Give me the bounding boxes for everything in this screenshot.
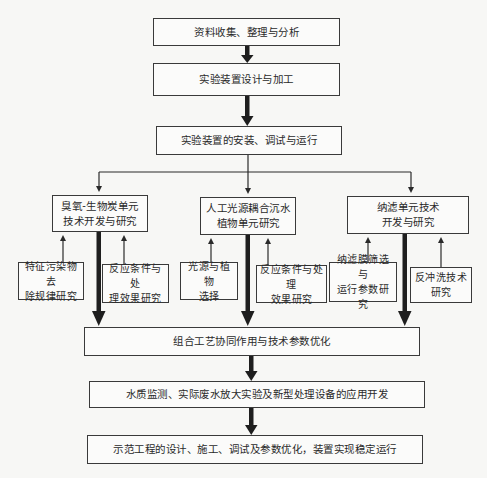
arrow-combine-to-water [245, 356, 258, 381]
sub-label: 反冲洗技术 研究 [415, 270, 468, 300]
unit-nanofiltration: 纳滤单元技术 开发与研究 [347, 196, 469, 234]
sub-reaction-conditions-2: 反应条件与处理 效果研究 [256, 265, 327, 303]
step-combined-optimization: 组合工艺协同作用与技术参数优化 [84, 327, 420, 356]
sub-label: 特征污染物去 除规律研究 [21, 259, 81, 304]
arrow-step2-to-step3 [241, 96, 254, 126]
unit-title: 人工光源耦合沉水 植物单元研究 [206, 201, 290, 231]
step-label: 资料收集、整理与分析 [194, 25, 299, 40]
arrow-water-to-demo [245, 408, 258, 435]
step-demo-project: 示范工程的设计、施工、调试及参数优化，装置实现稳定运行 [87, 435, 423, 464]
sub-reaction-conditions-1: 反应条件与处 理效果研究 [102, 264, 169, 303]
sub-label: 反应条件与处理 效果研究 [259, 262, 324, 307]
sub-pollutant-removal: 特征污染物去 除规律研究 [18, 262, 84, 300]
sub-label: 纳滤膜筛选与 运行参数研究 [332, 252, 394, 312]
step-label: 水质监测、实际废水放大实验及新型处理设备的应用开发 [126, 387, 389, 402]
branch-connector [99, 155, 411, 191]
step-water-monitoring: 水质监测、实际废水放大实验及新型处理设备的应用开发 [89, 381, 425, 408]
step-data-collection: 资料收集、整理与分析 [153, 18, 340, 46]
step-device-design: 实验装置设计与加工 [153, 63, 340, 96]
unit-ozone-biochar: 臭氧-生物炭单元 技术开发与研究 [52, 195, 148, 232]
step-label: 实验装置的安装、调试与运行 [181, 133, 318, 148]
sub-backwash: 反冲洗技术 研究 [410, 267, 472, 303]
unit-title: 纳滤单元技术 开发与研究 [377, 200, 440, 230]
unit-artificial-light-plants: 人工光源耦合沉水 植物单元研究 [200, 197, 296, 235]
step-device-installation: 实验装置的安装、调试与运行 [156, 126, 342, 155]
step-label: 组合工艺协同作用与技术参数优化 [173, 334, 331, 349]
unit-title: 臭氧-生物炭单元 技术开发与研究 [61, 199, 139, 229]
sub-light-plant-selection: 光源与植物 选择 [180, 262, 238, 300]
step-label: 示范工程的设计、施工、调试及参数优化，装置实现稳定运行 [113, 442, 397, 457]
sub-membrane-screening: 纳滤膜筛选与 运行参数研究 [329, 262, 397, 302]
sub-label: 反应条件与处 理效果研究 [105, 261, 166, 306]
step-label: 实验装置设计与加工 [199, 72, 294, 87]
sub-label: 光源与植物 选择 [183, 259, 235, 304]
arrow-step1-to-step2 [241, 46, 254, 63]
